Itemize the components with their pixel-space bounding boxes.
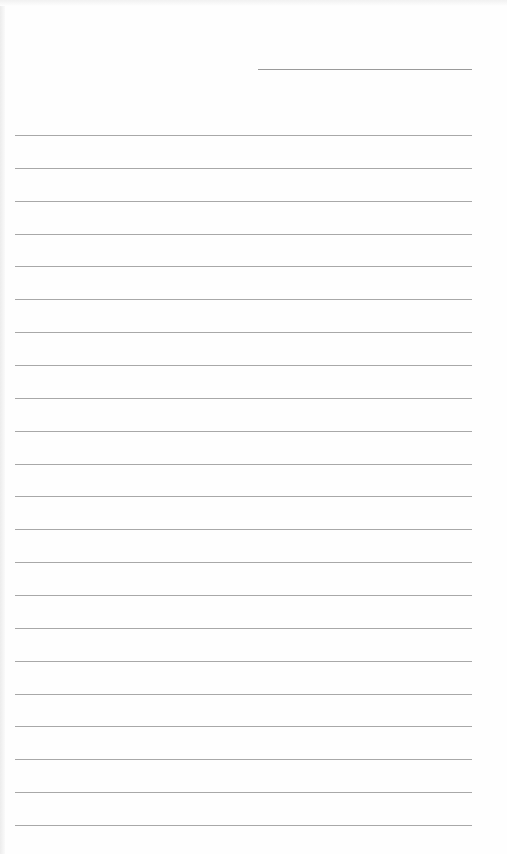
- header-name-line: [258, 69, 472, 70]
- page-top-edge: [0, 0, 507, 6]
- ruled-line: [15, 726, 472, 727]
- ruled-line: [15, 825, 472, 826]
- ruled-line: [15, 234, 472, 235]
- ruled-line: [15, 792, 472, 793]
- ruled-line: [15, 529, 472, 530]
- ruled-line: [15, 431, 472, 432]
- ruled-line: [15, 628, 472, 629]
- ruled-line: [15, 365, 472, 366]
- ruled-line: [15, 759, 472, 760]
- ruled-line: [15, 135, 472, 136]
- ruled-line: [15, 595, 472, 596]
- ruled-line: [15, 661, 472, 662]
- ruled-line: [15, 201, 472, 202]
- ruled-line: [15, 168, 472, 169]
- ruled-line: [15, 332, 472, 333]
- page-left-edge: [0, 0, 5, 854]
- ruled-line: [15, 694, 472, 695]
- ruled-line: [15, 398, 472, 399]
- ruled-line: [15, 266, 472, 267]
- ruled-line: [15, 299, 472, 300]
- ruled-line: [15, 464, 472, 465]
- ruled-line: [15, 562, 472, 563]
- ruled-line: [15, 496, 472, 497]
